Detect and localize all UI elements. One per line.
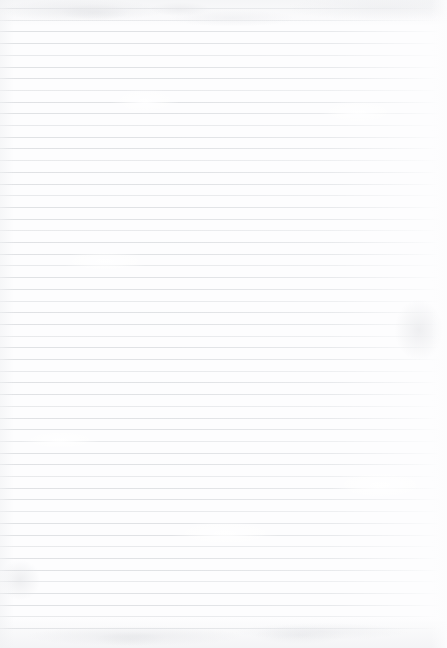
page-content-area — [0, 0, 447, 648]
scanned-page — [0, 0, 447, 648]
